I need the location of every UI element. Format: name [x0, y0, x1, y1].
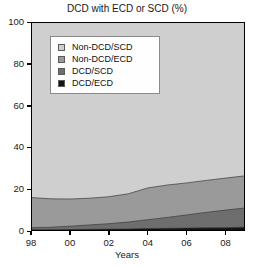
x-tick-label: 04 [136, 238, 160, 248]
x-tick-mark [108, 231, 110, 235]
legend: Non-DCD/SCDNon-DCD/ECDDCD/SCDDCD/ECD [50, 36, 160, 94]
legend-swatch-icon [58, 44, 65, 51]
legend-item: DCD/SCD [58, 65, 154, 77]
x-tick-mark [69, 231, 71, 235]
legend-label: Non-DCD/ECD [72, 55, 133, 64]
x-tick-mark [147, 231, 149, 235]
legend-item: DCD/ECD [58, 77, 154, 89]
legend-item: Non-DCD/ECD [58, 53, 154, 65]
legend-label: Non-DCD/SCD [72, 43, 133, 52]
legend-swatch-icon [58, 56, 65, 63]
y-tick-label: 60 [0, 101, 24, 111]
x-tick-mark [30, 231, 32, 235]
legend-item: Non-DCD/SCD [58, 41, 154, 53]
y-tick-label: 80 [0, 59, 24, 69]
x-tick-label: 00 [58, 238, 82, 248]
y-tick-label: 0 [0, 226, 24, 236]
x-tick-label: 06 [175, 238, 199, 248]
y-tick-label: 100 [0, 17, 24, 27]
x-tick-mark [186, 231, 188, 235]
legend-label: DCD/SCD [72, 67, 113, 76]
legend-swatch-icon [58, 68, 65, 75]
x-tick-label: 08 [214, 238, 238, 248]
x-tick-label: 98 [19, 238, 43, 248]
legend-label: DCD/ECD [72, 79, 113, 88]
x-tick-label: 02 [97, 238, 121, 248]
y-tick-label: 40 [0, 142, 24, 152]
chart-title: DCD with ECD or SCD (%) [0, 3, 254, 14]
y-tick-label: 20 [0, 184, 24, 194]
chart-container: DCD with ECD or SCD (%) 020406080100 980… [0, 0, 254, 267]
x-axis-title: Years [0, 249, 254, 260]
x-tick-mark [225, 231, 227, 235]
legend-swatch-icon [58, 80, 65, 87]
